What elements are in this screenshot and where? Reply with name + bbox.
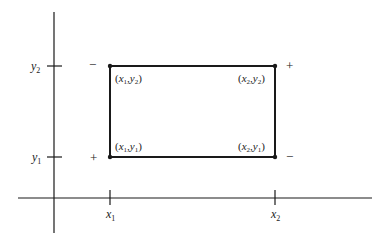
corner-point-bottom-left [108,155,112,159]
corner-label-top-right: (x2,y2) [238,72,265,86]
x1-label: x1 [105,207,115,223]
corner-point-top-left [108,64,112,68]
sign-bottom-left: + [90,150,97,165]
y2-label: y2 [30,59,40,75]
sign-top-left: − [89,57,96,72]
rectangle-region-diagram: y2 y1 x1 x2 (x1,y2) (x2,y2) (x1,y1) (x2,… [0,0,387,243]
corner-label-bottom-left: (x1,y1) [115,140,142,154]
corner-label-bottom-right: (x2,y1) [238,140,265,154]
y1-label: y1 [31,150,41,166]
corner-point-top-right [273,64,277,68]
x2-label: x2 [270,207,280,223]
sign-bottom-right: − [286,149,293,164]
corner-point-bottom-right [273,155,277,159]
corner-label-top-left: (x1,y2) [115,72,142,86]
sign-top-right: + [286,58,293,73]
